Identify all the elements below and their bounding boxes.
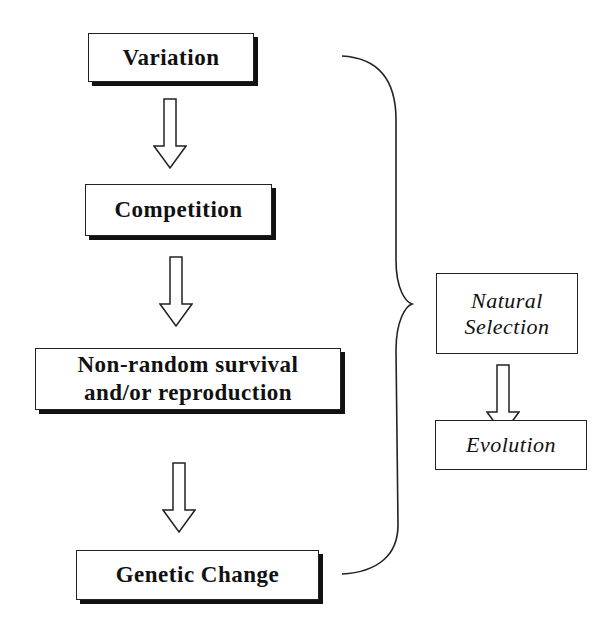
non-random-survival-line1: Non-random survival [78, 351, 299, 379]
evolution-label: Evolution [466, 432, 556, 457]
genetic-change-label: Genetic Change [116, 562, 280, 588]
down-arrow-icon [153, 98, 187, 170]
down-arrow-icon [159, 256, 193, 328]
curly-brace-icon [338, 50, 418, 580]
non-random-survival-box: Non-random survival and/or reproduction [35, 348, 341, 410]
competition-box: Competition [85, 184, 272, 236]
genetic-change-box: Genetic Change [76, 550, 319, 600]
natural-selection-line2: Selection [464, 314, 549, 339]
natural-selection-box: Natural Selection [436, 273, 578, 354]
variation-box: Variation [88, 33, 254, 82]
competition-label: Competition [114, 197, 242, 223]
non-random-survival-line2: and/or reproduction [84, 379, 292, 407]
variation-label: Variation [123, 45, 220, 71]
evolution-box: Evolution [435, 420, 587, 470]
natural-selection-line1: Natural [471, 288, 543, 313]
down-arrow-icon [162, 462, 196, 534]
